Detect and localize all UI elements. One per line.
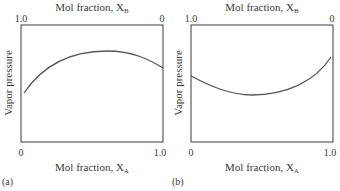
top-axis-label-b: Mol fraction, XB [225, 1, 299, 15]
bottom-tick-right-a: 1.0 [154, 147, 167, 158]
top-tick-right-a: 0 [160, 13, 165, 24]
top-tick-right-b: 0 [330, 13, 335, 24]
top-axis-label-a: Mol fraction, XB [55, 1, 129, 15]
vapor-pressure-curve-a [24, 51, 163, 93]
panel-a: Mol fraction, XB 1.0 0 Vapor pressure 0 … [2, 1, 166, 188]
vapor-pressure-figure: Mol fraction, XB 1.0 0 Vapor pressure 0 … [0, 0, 340, 191]
bottom-tick-right-b: 1.0 [324, 147, 337, 158]
panel-label-a: (a) [2, 176, 13, 188]
x-axis-label-b: Mol fraction, XA [225, 161, 299, 175]
plot-frame-a [21, 25, 163, 142]
top-tick-left-a: 1.0 [15, 13, 28, 24]
bottom-tick-left-a: 0 [19, 147, 24, 158]
y-axis-label-b: Vapor pressure [172, 50, 184, 116]
vapor-pressure-curve-b [191, 57, 331, 95]
bottom-tick-left-b: 0 [189, 147, 194, 158]
plot-frame-b [191, 25, 333, 142]
x-axis-label-a: Mol fraction, XA [55, 161, 129, 175]
panel-b: Mol fraction, XB 1.0 0 Vapor pressure 0 … [172, 1, 336, 188]
y-axis-label-a: Vapor pressure [2, 50, 14, 116]
top-tick-left-b: 1.0 [185, 13, 198, 24]
panel-label-b: (b) [172, 176, 184, 188]
